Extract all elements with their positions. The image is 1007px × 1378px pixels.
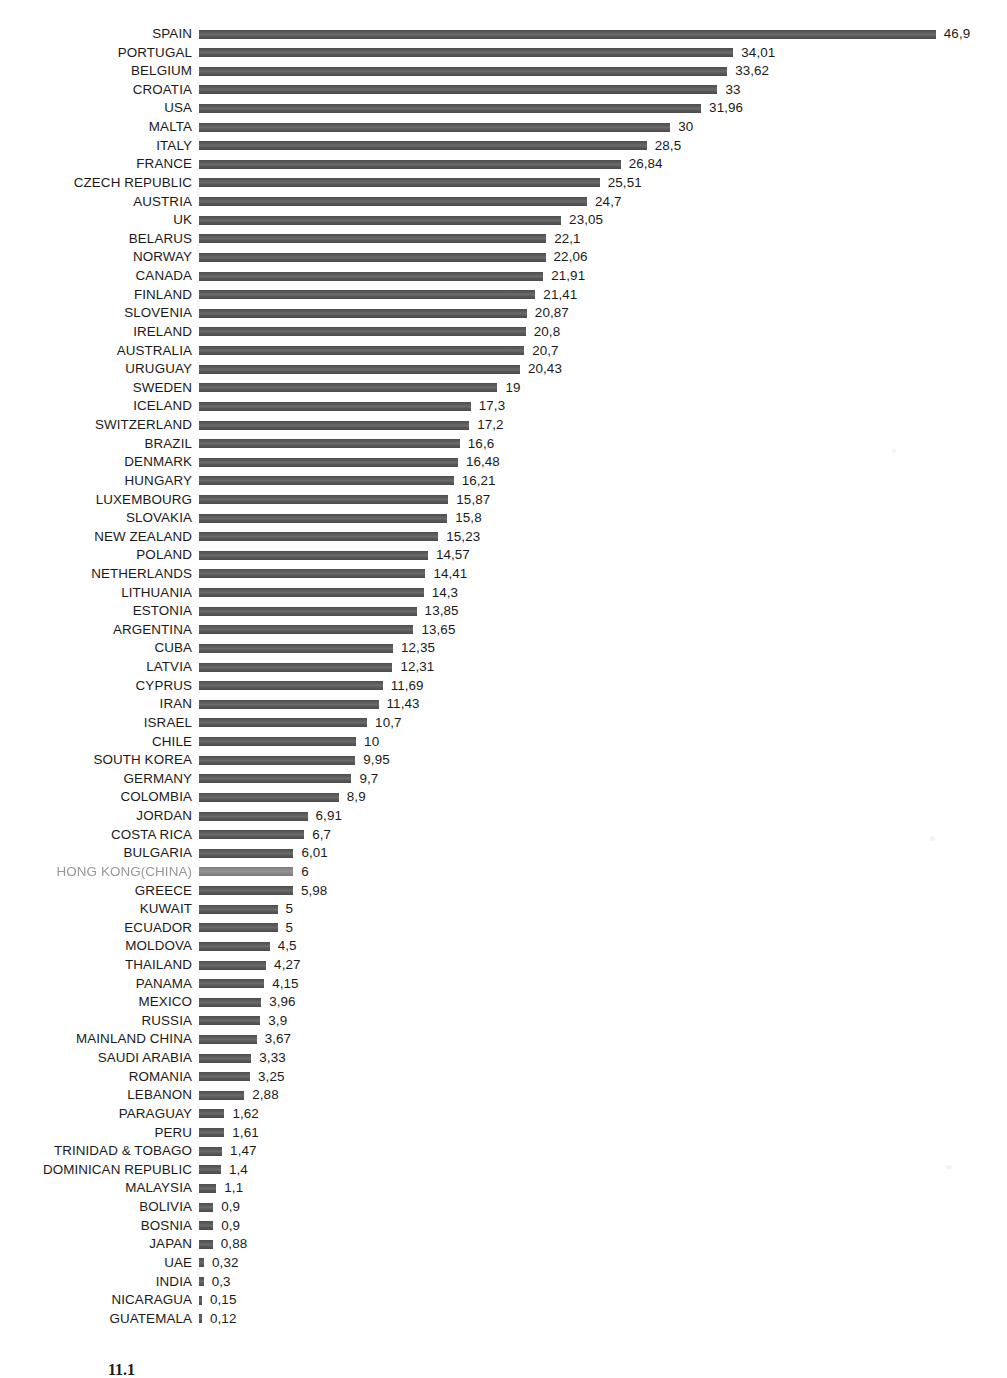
bar-container xyxy=(199,1198,213,1216)
bar-container xyxy=(199,1124,224,1142)
bar-row: SOUTH KOREA9,95 xyxy=(0,751,1007,769)
bar-value-label: 10 xyxy=(364,733,379,751)
category-label: LUXEMBOURG xyxy=(0,491,192,509)
bar-value-label: 4,5 xyxy=(278,937,297,955)
category-label: MOLDOVA xyxy=(0,937,192,955)
bar-value-label: 20,7 xyxy=(532,342,558,360)
bar-container xyxy=(199,379,497,397)
bar-value-label: 0,3 xyxy=(212,1273,231,1291)
bar xyxy=(199,67,727,76)
bar-value-label: 14,57 xyxy=(436,546,470,564)
bar-value-label: 1,4 xyxy=(229,1161,248,1179)
bar-row: HUNGARY16,21 xyxy=(0,472,1007,490)
bar-container xyxy=(199,844,293,862)
bar-row: MAINLAND CHINA3,67 xyxy=(0,1030,1007,1048)
bar-container xyxy=(199,118,670,136)
bar-container xyxy=(199,360,520,378)
bar-value-label: 3,25 xyxy=(258,1068,284,1086)
bar-container xyxy=(199,44,733,62)
bar xyxy=(199,737,356,746)
bar xyxy=(199,402,471,411)
bar-container xyxy=(199,528,438,546)
bar-container xyxy=(199,416,469,434)
bar-container xyxy=(199,193,587,211)
category-label: CHILE xyxy=(0,733,192,751)
category-label: SLOVAKIA xyxy=(0,509,192,527)
bar-row: HONG KONG(CHINA)6 xyxy=(0,863,1007,881)
bar-container xyxy=(199,1179,216,1197)
bar-row: IRAN11,43 xyxy=(0,695,1007,713)
bar xyxy=(199,383,497,392)
category-label: FINLAND xyxy=(0,286,192,304)
bar-row: ARGENTINA13,65 xyxy=(0,621,1007,639)
category-label: NETHERLANDS xyxy=(0,565,192,583)
bar xyxy=(199,1035,257,1044)
bar-container xyxy=(199,1235,213,1253)
bar-value-label: 6 xyxy=(301,863,309,881)
bar-value-label: 34,01 xyxy=(741,44,775,62)
bar-row: PARAGUAY1,62 xyxy=(0,1105,1007,1123)
bar-container xyxy=(199,546,428,564)
category-label: LEBANON xyxy=(0,1086,192,1104)
category-label: COLOMBIA xyxy=(0,788,192,806)
category-label: GUATEMALA xyxy=(0,1310,192,1328)
bar-value-label: 3,67 xyxy=(265,1030,291,1048)
bar-row: BELGIUM33,62 xyxy=(0,62,1007,80)
bar-value-label: 23,05 xyxy=(569,211,603,229)
bar-value-label: 11,43 xyxy=(387,695,420,713)
bar-row: LITHUANIA14,3 xyxy=(0,584,1007,602)
bar-value-label: 0,15 xyxy=(210,1291,236,1309)
bar xyxy=(199,774,351,783)
bar-container xyxy=(199,230,546,248)
category-label: UAE xyxy=(0,1254,192,1272)
bar-container xyxy=(199,602,417,620)
bar-row: NETHERLANDS14,41 xyxy=(0,565,1007,583)
bar-value-label: 2,88 xyxy=(252,1086,278,1104)
bar-row: ITALY28,5 xyxy=(0,137,1007,155)
bar-value-label: 3,33 xyxy=(259,1049,285,1067)
bar-row: PANAMA4,15 xyxy=(0,975,1007,993)
bar-container xyxy=(199,248,546,266)
bar-row: SLOVENIA20,87 xyxy=(0,304,1007,322)
bar-row: NICARAGUA0,15 xyxy=(0,1291,1007,1309)
bar-container xyxy=(199,1217,213,1235)
bar-row: MALTA30 xyxy=(0,118,1007,136)
category-label: THAILAND xyxy=(0,956,192,974)
bar-row: CUBA12,35 xyxy=(0,639,1007,657)
bar xyxy=(199,905,278,914)
bar-value-label: 21,91 xyxy=(551,267,585,285)
bar xyxy=(199,216,561,225)
bar-value-label: 15,8 xyxy=(455,509,481,527)
bar-row: COLOMBIA8,9 xyxy=(0,788,1007,806)
bar-value-label: 6,7 xyxy=(312,826,331,844)
bar-row: PORTUGAL34,01 xyxy=(0,44,1007,62)
bar xyxy=(199,234,546,243)
bar-row: GUATEMALA0,12 xyxy=(0,1310,1007,1328)
bar xyxy=(199,421,469,430)
bar-value-label: 0,9 xyxy=(221,1217,240,1235)
bar-row: JAPAN0,88 xyxy=(0,1235,1007,1253)
bar xyxy=(199,476,454,485)
category-label: SLOVENIA xyxy=(0,304,192,322)
category-label: AUSTRALIA xyxy=(0,342,192,360)
bar-container xyxy=(199,323,526,341)
bar-row: DENMARK16,48 xyxy=(0,453,1007,471)
bar-row: USA31,96 xyxy=(0,99,1007,117)
category-label: HUNGARY xyxy=(0,472,192,490)
chart-page: SPAIN46,9PORTUGAL34,01BELGIUM33,62CROATI… xyxy=(0,0,1007,1378)
category-label: DOMINICAN REPUBLIC xyxy=(0,1161,192,1179)
bar-container xyxy=(199,174,600,192)
bar-container xyxy=(199,99,701,117)
category-label: USA xyxy=(0,99,192,117)
bar-value-label: 46,9 xyxy=(944,25,970,43)
bar-container xyxy=(199,584,424,602)
bar-container xyxy=(199,975,264,993)
bar xyxy=(199,495,448,504)
bar-row: UAE0,32 xyxy=(0,1254,1007,1272)
bar xyxy=(199,272,543,281)
bar-value-label: 33 xyxy=(725,81,740,99)
bar-row: LUXEMBOURG15,87 xyxy=(0,491,1007,509)
bar xyxy=(199,867,293,876)
bar xyxy=(199,85,717,94)
bar-container xyxy=(199,453,458,471)
